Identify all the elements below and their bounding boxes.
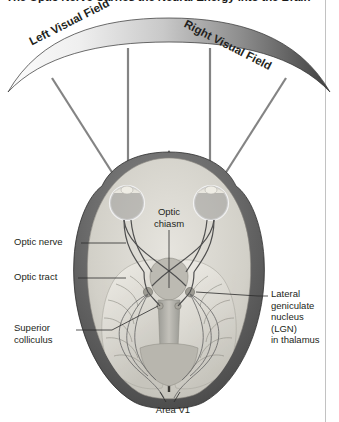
superior-colliculus-label-line2: colliculus: [14, 334, 53, 345]
light-ray-1: [52, 78, 122, 188]
left-lens: [121, 186, 133, 194]
optic-chiasm-label-line1: Optic: [158, 206, 180, 217]
superior-colliculus-label: Superior colliculus: [14, 322, 84, 345]
figure-page: The Optic Nerve Carries the Neural Energ…: [0, 0, 339, 422]
optic-chiasm-label: Optic chiasm: [147, 206, 191, 229]
left-eye: [110, 186, 144, 220]
lgn-label: Lateral geniculate nucleus (LGN) in thal…: [271, 288, 333, 346]
lgn-label-line1: Lateral: [271, 288, 300, 299]
light-ray-4: [216, 78, 286, 188]
optic-tract-label: Optic tract: [14, 271, 57, 283]
superior-colliculus-label-line1: Superior: [14, 322, 50, 333]
right-eye: [194, 186, 228, 220]
optic-chiasm-label-line2: chiasm: [154, 218, 184, 229]
lgn-label-line4: (LGN): [271, 323, 297, 334]
lgn-label-line5: in thalamus: [271, 334, 320, 345]
optic-nerve-label: Optic nerve: [14, 236, 63, 248]
right-lens: [205, 186, 217, 194]
lgn-label-line2: geniculate: [271, 300, 314, 311]
lgn-label-line3: nucleus: [271, 311, 304, 322]
area-v1-label: Area V1: [140, 404, 206, 416]
